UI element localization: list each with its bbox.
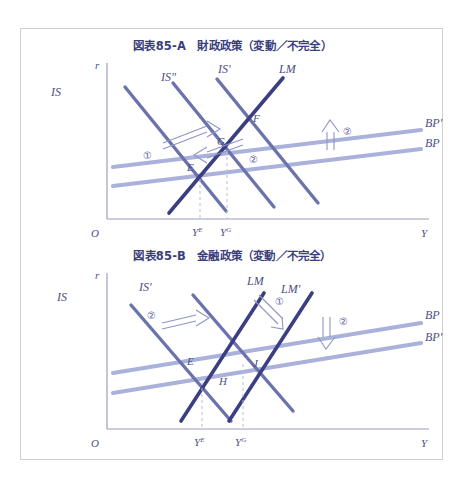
point-label-j: J <box>253 357 259 369</box>
point-label-g: G <box>217 135 225 147</box>
origin-label: O <box>91 227 99 239</box>
arrow-is-step-2 <box>162 310 209 329</box>
point-label-f: F <box>252 112 260 124</box>
label-is-prime: ISʹ <box>138 280 152 294</box>
is-curve <box>125 87 226 211</box>
origin-label: O <box>91 437 99 449</box>
figure-frame: 図表85-A 財政政策（変動／不完全） <box>20 28 443 460</box>
panel-b-plot: IS ISʹ LM LMʹ BP BPʹ E H J ① ② ② r Y O Y… <box>21 261 444 455</box>
svg-text:YG: YG <box>235 436 246 448</box>
x-axis-label: Y <box>421 437 429 449</box>
annotation-bp-step-2: ② <box>343 126 352 137</box>
bp-prime-curve <box>113 343 421 393</box>
label-lm: LM <box>246 274 265 288</box>
svg-text:YG: YG <box>220 226 231 238</box>
point-label-e: E <box>186 161 194 173</box>
label-is-prime: ISʹ <box>217 62 231 76</box>
label-lm-prime: LMʹ <box>280 282 301 296</box>
annotation-lm-step-1: ① <box>275 296 284 307</box>
bp-prime-curve <box>113 130 421 167</box>
label-is: IS <box>50 85 61 99</box>
tick-yg-sup: G <box>226 226 231 234</box>
label-is-double-prime: ISʺ <box>160 70 177 84</box>
svg-text:YE: YE <box>192 226 203 238</box>
tick-label-ye: YE <box>192 226 203 238</box>
point-label-h: H <box>218 375 228 387</box>
tick-ye-sup: E <box>197 226 203 234</box>
label-bp-prime: BPʹ <box>425 330 443 344</box>
tick-label-ye: YE <box>194 436 205 448</box>
y-axis-label: r <box>95 269 100 281</box>
annotation-is-step-2: ② <box>147 310 156 321</box>
panel-a-plot: IS ISʺ ISʹ LM BPʹ BP E F G ① ② ② r Y O Y… <box>21 51 444 245</box>
chart-panel-a: 図表85-A 財政政策（変動／不完全） <box>21 29 444 245</box>
bp-curve <box>113 149 421 186</box>
annotation-bp-step-2: ② <box>339 316 348 327</box>
annotation-step-2: ② <box>249 154 258 165</box>
label-lm: LM <box>278 62 297 76</box>
label-bp: BP <box>425 136 440 150</box>
point-label-e: E <box>186 355 194 367</box>
lm-prime-curve <box>229 293 312 421</box>
x-axis-label: Y <box>421 227 429 239</box>
label-bp-prime: BPʹ <box>425 116 443 130</box>
svg-text:YE: YE <box>194 436 205 448</box>
annotation-step-1: ① <box>143 150 152 161</box>
label-is: IS <box>56 290 67 304</box>
chart-panel-b: 図表85-B 金融政策（変動／不完全） <box>21 239 444 455</box>
tick-label-yg: YG <box>235 436 246 448</box>
tick-ye-sup: E <box>199 436 205 444</box>
tick-yg-sup: G <box>241 436 246 444</box>
y-axis-label: r <box>95 59 100 71</box>
tick-label-yg: YG <box>220 226 231 238</box>
arrow-bp-step-2 <box>322 120 339 150</box>
arrow-bp-step-2 <box>318 317 335 349</box>
label-bp: BP <box>425 308 440 322</box>
